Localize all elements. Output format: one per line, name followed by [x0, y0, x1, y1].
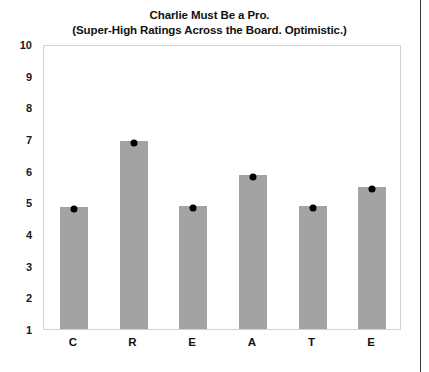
bar-t-4: [299, 206, 327, 330]
bar-a-3: [239, 175, 267, 329]
bar-top-marker-dot: [309, 204, 316, 211]
y-tick-label: 3: [26, 261, 32, 272]
y-tick-label: 9: [26, 71, 32, 82]
bar-top-marker-dot: [369, 185, 376, 192]
x-tick-label: R: [128, 336, 136, 348]
bar-e-5: [358, 187, 386, 330]
bar-top-marker-dot: [190, 204, 197, 211]
plot-area: [44, 46, 400, 329]
y-tick-label: 2: [26, 293, 32, 304]
y-tick-label: 7: [26, 135, 32, 146]
y-tick-label: 10: [20, 40, 32, 51]
y-tick-label: 1: [26, 325, 32, 336]
y-tick-label: 8: [26, 103, 32, 114]
chart-subtitle: (Super-High Ratings Across the Board. Op…: [0, 23, 419, 37]
bar-c-0: [60, 207, 88, 329]
x-axis: CREATE: [43, 336, 401, 356]
page-title: Charlie Must Be a Pro.: [0, 8, 419, 22]
bar-e-2: [179, 206, 207, 330]
x-tick-label: E: [188, 336, 196, 348]
x-tick-label: E: [367, 336, 375, 348]
x-tick-label: C: [69, 336, 77, 348]
x-tick-label: A: [248, 336, 256, 348]
bar-top-marker-dot: [70, 206, 77, 213]
bar-r-1: [120, 141, 148, 329]
page-edge-rule: [420, 0, 421, 372]
bar-top-marker-dot: [249, 174, 256, 181]
y-tick-label: 4: [26, 230, 32, 241]
x-tick-label: T: [308, 336, 315, 348]
chart-title-block: Charlie Must Be a Pro. (Super-High Ratin…: [0, 8, 419, 37]
y-axis: 12345678910: [0, 45, 41, 330]
y-tick-label: 5: [26, 198, 32, 209]
bar-top-marker-dot: [130, 139, 137, 146]
plot-frame: [43, 45, 401, 330]
page-sheet: Charlie Must Be a Pro. (Super-High Ratin…: [0, 0, 419, 372]
y-tick-label: 6: [26, 166, 32, 177]
